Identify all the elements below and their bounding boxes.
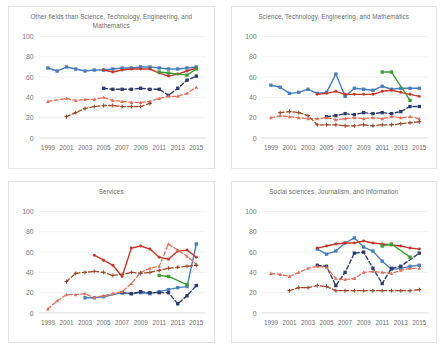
data-point-marker (167, 274, 170, 277)
data-point-marker (343, 288, 347, 292)
data-point-marker (380, 259, 383, 262)
data-point-marker (278, 111, 282, 115)
data-point-marker (380, 90, 383, 93)
x-tick-label: 2009 (356, 144, 371, 151)
data-point-marker (185, 78, 188, 81)
data-point-marker (408, 99, 411, 102)
x-tick-label: 2013 (393, 318, 408, 325)
data-point-marker (176, 302, 179, 305)
series-line-series-brown (66, 103, 149, 116)
data-point-marker (296, 111, 300, 115)
data-point-marker (167, 291, 170, 294)
data-point-marker (417, 87, 420, 90)
data-point-marker (195, 74, 198, 77)
series-line-series-green (159, 275, 187, 284)
x-tick-label: 2005 (97, 144, 112, 151)
data-point-marker (380, 281, 383, 284)
data-point-marker (380, 123, 384, 127)
chart-grid: Other fields than Science, Technology, E… (0, 0, 445, 349)
data-point-marker (324, 252, 327, 255)
y-tick-label: 60 (26, 248, 34, 255)
data-point-marker (352, 251, 355, 254)
data-point-marker (390, 89, 393, 92)
data-point-marker (176, 265, 180, 269)
y-tick-label: 40 (26, 268, 34, 275)
data-point-marker (83, 270, 87, 274)
y-tick-label: 80 (26, 53, 34, 60)
data-point-marker (361, 88, 364, 91)
data-point-marker (148, 270, 152, 274)
data-point-marker (111, 71, 114, 74)
data-point-marker (361, 111, 364, 114)
data-point-marker (343, 93, 346, 96)
data-point-marker (195, 242, 198, 245)
x-tick-label: 1999 (263, 144, 278, 151)
data-point-marker (343, 124, 347, 128)
x-tick-label: 2005 (97, 318, 112, 325)
data-point-marker (158, 273, 161, 276)
data-point-marker (93, 253, 96, 256)
data-point-marker (158, 70, 161, 73)
data-point-marker (102, 258, 105, 261)
data-point-marker (352, 87, 355, 90)
x-tick-label: 2015 (189, 318, 204, 325)
data-point-marker (111, 67, 114, 70)
panel-frame-other-fields: Other fields than Science, Technology, E… (8, 6, 215, 169)
x-tick-label: 2011 (152, 318, 166, 325)
data-point-marker (120, 88, 123, 91)
data-point-marker (334, 114, 337, 117)
x-tick-label: 2007 (338, 144, 353, 151)
y-tick-label: 60 (249, 248, 257, 255)
data-point-marker (361, 123, 365, 127)
data-point-marker (111, 88, 114, 91)
data-point-marker (408, 255, 411, 258)
data-point-marker (334, 249, 337, 252)
data-point-marker (148, 266, 152, 269)
data-point-marker (408, 121, 412, 125)
data-point-marker (333, 288, 337, 292)
data-point-marker (185, 264, 189, 268)
data-point-marker (148, 88, 151, 91)
y-tick-label: 80 (249, 53, 257, 60)
data-point-marker (269, 84, 272, 87)
data-point-marker (296, 285, 300, 289)
data-point-marker (324, 123, 328, 127)
data-point-marker (417, 247, 420, 250)
data-point-marker (399, 264, 402, 267)
data-point-marker (148, 247, 151, 250)
y-tick-label: 0 (30, 135, 34, 142)
data-point-marker (102, 69, 105, 72)
data-point-marker (324, 284, 328, 288)
data-point-marker (74, 111, 78, 115)
data-point-marker (195, 255, 198, 258)
x-tick-label: 2007 (338, 318, 353, 325)
y-tick-label: 40 (249, 94, 257, 101)
x-tick-label: 2015 (412, 318, 427, 325)
y-tick-label: 80 (249, 228, 257, 235)
data-point-marker (102, 270, 106, 274)
data-point-marker (139, 87, 142, 90)
data-point-marker (343, 270, 346, 273)
x-tick-label: 1999 (263, 318, 278, 325)
data-point-marker (185, 282, 188, 285)
data-point-marker (287, 92, 290, 95)
data-point-marker (352, 288, 356, 292)
data-point-marker (362, 93, 365, 96)
data-point-marker (380, 288, 384, 292)
data-point-marker (315, 283, 319, 287)
data-point-marker (399, 91, 402, 94)
plot-services: 0204060801001999200120032005200720092011… (9, 182, 214, 343)
data-point-marker (130, 246, 133, 249)
data-point-marker (120, 105, 124, 109)
y-tick-label: 60 (26, 74, 34, 81)
data-point-marker (46, 66, 49, 69)
data-point-marker (398, 122, 402, 126)
x-tick-label: 1999 (41, 318, 56, 325)
y-tick-label: 20 (26, 114, 34, 121)
x-tick-label: 2001 (282, 144, 297, 151)
data-point-marker (167, 287, 170, 290)
x-tick-label: 2001 (59, 144, 74, 151)
data-point-marker (139, 244, 142, 247)
data-point-marker (417, 95, 420, 98)
data-point-marker (157, 268, 161, 272)
